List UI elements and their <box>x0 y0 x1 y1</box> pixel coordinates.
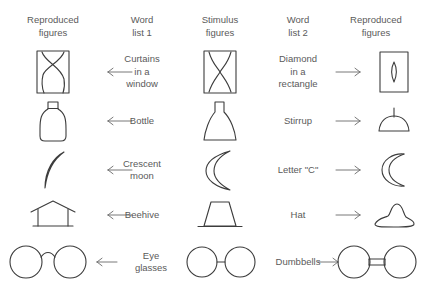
thin-crescent-moon-icon <box>36 148 70 192</box>
hat-blob-icon <box>372 200 416 230</box>
figure-reproduced-left <box>6 48 100 96</box>
column-headers: Reproduced figures Word list 1 Stimulus … <box>0 14 423 44</box>
figure-reproduced-right <box>366 48 422 96</box>
word-label-left: Bottle <box>104 115 180 128</box>
column-header-word-list-1: Word list 1 <box>104 14 180 39</box>
word-list-1-cell: Curtains in a window <box>104 48 180 96</box>
word-line-1: Diamond <box>260 53 336 66</box>
figure-reproduced-right <box>366 194 422 236</box>
table-row: Beehive Hat <box>0 194 423 236</box>
column-header-reproduced-left: Reproduced figures <box>6 14 100 39</box>
figure-stimulus <box>182 48 258 96</box>
figure-reproduced-right <box>366 98 422 144</box>
arrow-right-cell <box>330 146 366 194</box>
table-row: Curtains in a window Diamond in a rectan… <box>0 48 423 96</box>
dumbbells-icon <box>336 244 418 280</box>
word-list-2-cell: Hat <box>260 194 336 236</box>
bottle-icon <box>34 99 72 143</box>
right-arrow-icon <box>335 210 361 220</box>
column-header-reproduced-right: Reproduced figures <box>330 14 422 39</box>
figure-reproduced-right <box>366 146 422 194</box>
stirrup-dome-icon <box>374 104 414 138</box>
column-header-line1: Reproduced <box>6 14 100 27</box>
word-label-left: Curtains in a window <box>104 53 180 91</box>
column-header-line1: Word <box>104 14 180 27</box>
word-line-1: Beehive <box>104 209 180 222</box>
figure-reproduced-left <box>6 98 100 144</box>
figure-reproduced-left <box>6 146 100 194</box>
word-label-left: Eye glasses <box>118 250 184 275</box>
word-list-2-cell: Stirrup <box>260 98 336 144</box>
word-line-1: Curtains <box>104 53 180 66</box>
eye-glasses-icon <box>6 244 90 280</box>
word-label-left: Crescent moon <box>104 158 180 183</box>
word-line-1: Stirrup <box>260 115 336 128</box>
word-line-2: glasses <box>118 262 184 275</box>
column-header-line2: figures <box>330 27 422 40</box>
word-list-1-cell: Beehive <box>104 194 180 236</box>
word-label-right: Hat <box>260 209 336 222</box>
column-header-line2: list 1 <box>104 27 180 40</box>
column-header-stimulus: Stimulus figures <box>182 14 258 39</box>
column-header-line1: Word <box>260 14 336 27</box>
two-circles-joined-by-line-icon <box>185 245 257 279</box>
word-line-1: Hat <box>260 209 336 222</box>
word-list-2-cell: Diamond in a rectangle <box>260 48 336 96</box>
word-line-1: Eye <box>118 250 184 263</box>
word-line-2: in a <box>104 66 180 79</box>
trapezoid-on-baseline-icon <box>195 198 245 232</box>
word-list-1-cell: Bottle <box>104 98 180 144</box>
word-label-left: Beehive <box>104 209 180 222</box>
beehive-house-outline-icon <box>29 198 77 232</box>
column-header-line2: figures <box>6 27 100 40</box>
column-header-line1: Stimulus <box>182 14 258 27</box>
word-list-1-cell: Eye glasses <box>118 240 184 284</box>
figure-reproduced-left <box>6 194 100 236</box>
word-label-right: Diamond in a rectangle <box>260 53 336 91</box>
word-list-2-cell: Letter "C" <box>260 146 336 194</box>
arrow-right-cell <box>330 48 366 96</box>
table-row: Bottle Stirrup <box>0 98 423 144</box>
column-header-word-list-2: Word list 2 <box>260 14 336 39</box>
word-line-1: Letter "C" <box>260 164 336 177</box>
word-line-1: Bottle <box>104 115 180 128</box>
column-header-line1: Reproduced <box>330 14 422 27</box>
rectangle-with-curved-diamond-icon <box>199 49 241 95</box>
rectangle-with-small-diamond-icon <box>377 50 411 94</box>
arrow-right-cell <box>330 194 366 236</box>
word-line-3: rectangle <box>260 78 336 91</box>
figure-reproduced-right <box>332 240 422 284</box>
word-line-2: moon <box>104 170 180 183</box>
column-header-line2: list 2 <box>260 27 336 40</box>
word-line-3: window <box>104 78 180 91</box>
figure-reproduced-left <box>2 240 94 284</box>
word-label-right: Stirrup <box>260 115 336 128</box>
table-row: Crescent moon Letter "C" <box>0 146 423 194</box>
figure-stimulus <box>182 194 258 236</box>
right-arrow-icon <box>335 165 361 175</box>
word-label-right: Letter "C" <box>260 164 336 177</box>
word-line-2: in a <box>260 66 336 79</box>
left-arrow-icon <box>96 257 118 267</box>
diagram-canvas: Reproduced figures Word list 1 Stimulus … <box>0 0 423 291</box>
word-line-1: Crescent <box>104 158 180 171</box>
letter-c-shape-icon <box>377 149 411 191</box>
flask-trapezoid-with-neck-icon <box>198 99 242 143</box>
arrow-right-cell <box>330 98 366 144</box>
figure-stimulus <box>182 146 258 194</box>
crescent-icon <box>201 148 239 192</box>
right-arrow-icon <box>335 67 361 77</box>
column-header-line2: figures <box>182 27 258 40</box>
table-row: Eye glasses Dumbbells <box>0 240 423 284</box>
word-list-1-cell: Crescent moon <box>104 146 180 194</box>
figure-stimulus <box>176 240 266 284</box>
rectangle-with-crossed-curtains-icon <box>33 49 73 95</box>
right-arrow-icon <box>335 116 361 126</box>
figure-stimulus <box>182 98 258 144</box>
